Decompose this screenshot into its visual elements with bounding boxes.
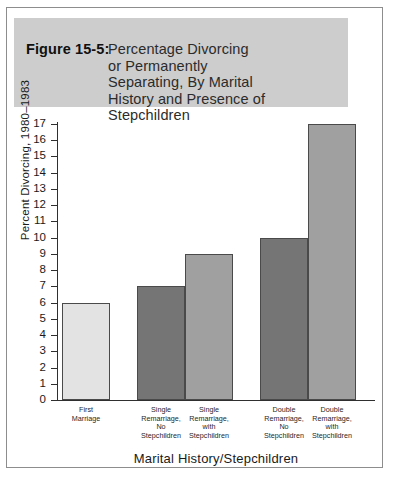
y-axis-tick-label: 13 — [6, 183, 46, 195]
y-axis-tick — [51, 303, 57, 304]
figure-root: Figure 15-5: Percentage Divorcing or Per… — [0, 0, 398, 478]
y-axis-tick-label: 8 — [6, 264, 46, 276]
y-axis-tick — [51, 140, 57, 141]
y-axis-tick — [51, 221, 57, 222]
bar — [185, 254, 233, 400]
y-axis-tick-label: 15 — [6, 150, 46, 162]
y-axis-tick-label: 14 — [6, 167, 46, 179]
x-axis-category-label: Double Remarriage, with Stepchildren — [303, 406, 361, 440]
x-axis-line — [57, 400, 375, 401]
y-axis-tick-label: 10 — [6, 232, 46, 244]
y-axis-tick-label: 17 — [6, 118, 46, 130]
y-axis-tick — [51, 254, 57, 255]
y-axis-tick — [51, 205, 57, 206]
x-axis-category-label: First Marriage — [57, 406, 115, 423]
bar — [260, 238, 308, 400]
y-axis-tick-label: 2 — [6, 362, 46, 374]
bar — [137, 286, 185, 400]
y-axis-tick-label: 4 — [6, 329, 46, 341]
y-axis-tick-label: 5 — [6, 313, 46, 325]
y-axis-tick — [51, 335, 57, 336]
y-axis-tick-label: 1 — [6, 378, 46, 390]
x-axis-category-label: Single Remarriage, with Stepchildren — [180, 406, 238, 440]
y-axis-tick — [51, 238, 57, 239]
y-axis-tick — [51, 286, 57, 287]
y-axis-tick — [51, 270, 57, 271]
y-axis-tick — [51, 400, 57, 401]
y-axis-tick — [51, 124, 57, 125]
y-axis-tick-label: 6 — [6, 297, 46, 309]
bar — [62, 303, 110, 400]
y-axis-tick — [51, 319, 57, 320]
y-axis-tick-label: 7 — [6, 280, 46, 292]
y-axis-tick-label: 0 — [6, 394, 46, 406]
y-axis-tick-label: 16 — [6, 134, 46, 146]
chart-plot: Percent Divorcing, 1980–1983 01234567891… — [0, 0, 398, 478]
x-axis-title: Marital History/Stepchildren — [57, 451, 375, 466]
y-axis-tick — [51, 189, 57, 190]
bar — [308, 124, 356, 400]
y-axis-tick-label: 12 — [6, 199, 46, 211]
y-axis-tick-label: 11 — [6, 215, 46, 227]
y-axis-tick-label: 9 — [6, 248, 46, 260]
y-axis-tick — [51, 384, 57, 385]
y-axis-tick — [51, 156, 57, 157]
y-axis-line — [57, 122, 58, 401]
y-axis-tick — [51, 351, 57, 352]
y-axis-tick — [51, 368, 57, 369]
y-axis-tick — [51, 173, 57, 174]
y-axis-tick-label: 3 — [6, 345, 46, 357]
